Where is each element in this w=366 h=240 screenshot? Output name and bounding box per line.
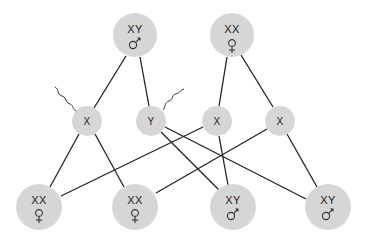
edge-mother-egg-x-2 (241, 55, 273, 107)
sperm-y-label: Y (147, 116, 154, 127)
edge-father-sperm-x (94, 56, 126, 108)
offspring-child-1: XX (16, 184, 62, 230)
egg-x-2-label: X (276, 116, 283, 127)
gamete-egg-x-1: X (202, 106, 232, 136)
child-2-node (112, 184, 158, 230)
offspring-child-3: XY (210, 184, 256, 230)
offspring-child-2: XX (112, 184, 158, 230)
inheritance-diagram: XY XX X Y X X XX (0, 0, 366, 240)
sperm-x-tail-icon (55, 87, 76, 111)
edge-mother-egg-x-1 (219, 57, 227, 106)
edge-egg-x-1-child-3 (219, 136, 228, 185)
child-1-label: XX (31, 194, 47, 206)
parent-father: XY (113, 13, 157, 57)
gamete-sperm-x: X (72, 106, 102, 136)
edge-sperm-x-child-1 (50, 134, 79, 187)
father-node (113, 13, 157, 57)
child-1-node (16, 184, 62, 230)
sperm-x-label: X (83, 116, 90, 127)
edge-sperm-x-child-2 (95, 134, 124, 187)
gamete-egg-x-2: X (265, 106, 295, 136)
father-label: XY (127, 23, 143, 35)
sperm-y-tail-icon (163, 89, 184, 110)
mother-label: XX (224, 23, 240, 35)
gamete-sperm-y: Y (136, 106, 166, 136)
child-2-label: XX (127, 194, 143, 206)
child-3-node (210, 184, 256, 230)
child-4-label: XY (320, 194, 336, 206)
child-3-label: XY (225, 194, 241, 206)
parent-mother: XX (210, 13, 254, 57)
edge-egg-x-2-child-4 (287, 134, 317, 187)
edge-father-sperm-y (140, 57, 149, 106)
egg-x-1-label: X (213, 116, 220, 127)
child-4-node (305, 184, 351, 230)
offspring-child-4: XY (305, 184, 351, 230)
